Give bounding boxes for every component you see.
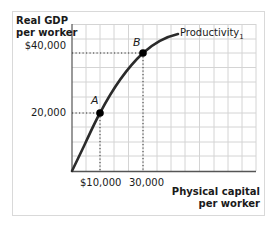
y-tick-40000: $40,000 bbox=[14, 40, 66, 51]
point-b-marker bbox=[139, 49, 147, 57]
y-tick-20000: 20,000 bbox=[14, 107, 66, 118]
x-tick-10000: $10,000 bbox=[80, 177, 121, 188]
curve-label-text: Productivity bbox=[180, 27, 239, 38]
x-axis-title-line2: per worker bbox=[150, 198, 260, 210]
y-axis-title-line1: Real GDP bbox=[16, 15, 68, 27]
point-a-label: A bbox=[91, 94, 99, 107]
guide-lines bbox=[72, 53, 143, 171]
y-axis-title: Real GDP per worker bbox=[16, 15, 68, 39]
point-b-label: B bbox=[133, 36, 141, 49]
y-axis-title-line2: per worker bbox=[16, 27, 68, 39]
curve-label: Productivity1 bbox=[180, 27, 244, 41]
x-axis-title-line1: Physical capital bbox=[150, 186, 260, 198]
productivity-curve bbox=[72, 34, 178, 171]
point-a-marker bbox=[96, 109, 104, 117]
x-axis-title: Physical capital per worker bbox=[150, 186, 260, 210]
curve-label-subscript: 1 bbox=[239, 33, 243, 41]
